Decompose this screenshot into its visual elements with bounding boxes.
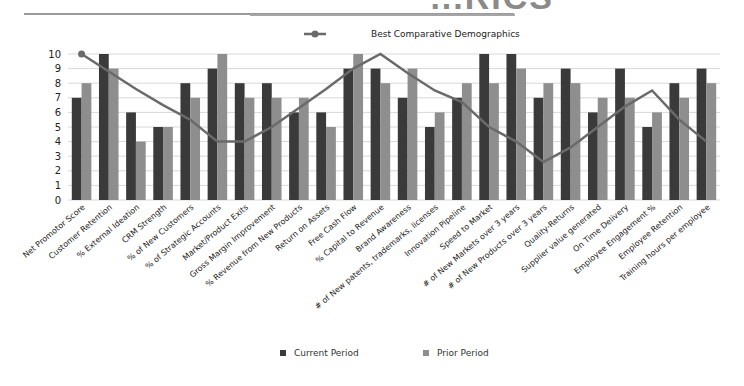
bar-prior-period: [435, 112, 445, 200]
bar-prior-period: [245, 98, 255, 200]
bar-prior-period: [272, 98, 282, 200]
bar-current-period: [289, 112, 299, 200]
bar-prior-period: [190, 98, 200, 200]
x-tick-label: # of New Markets over 3 years: [421, 203, 522, 289]
bar-current-period: [343, 69, 353, 200]
bar-prior-period: [408, 69, 418, 200]
bar-current-period: [126, 112, 136, 200]
y-tick-label: 4: [55, 136, 61, 147]
legend-label-line: Best Comparative Demographics: [371, 29, 520, 39]
bar-prior-period: [516, 69, 526, 200]
bar-prior-period: [462, 83, 472, 200]
bar-current-period: [534, 98, 544, 200]
y-tick-label: 7: [55, 92, 61, 103]
y-tick-label: 6: [55, 107, 61, 118]
bar-current-period: [398, 98, 408, 200]
y-tick-label: 5: [55, 122, 61, 133]
bar-prior-period: [82, 83, 92, 200]
legend-label-prior: Prior Period: [437, 348, 489, 358]
bar-prior-period: [489, 83, 499, 200]
bar-prior-period: [380, 83, 390, 200]
bar-current-period: [262, 83, 272, 200]
bar-prior-period: [136, 142, 146, 200]
bar-current-period: [669, 83, 679, 200]
legend-line-marker-icon: [312, 31, 319, 38]
bar-prior-period: [299, 98, 309, 200]
y-tick-label: 0: [55, 195, 61, 206]
bar-prior-period: [598, 98, 608, 200]
y-tick-label: 1: [55, 180, 61, 191]
bar-current-period: [316, 112, 326, 200]
y-tick-label: 10: [48, 49, 61, 60]
bar-current-period: [72, 98, 82, 200]
x-tick-label: # of New Products over 3 years: [446, 203, 549, 291]
bar-current-period: [180, 83, 190, 200]
bar-current-period: [588, 112, 598, 200]
y-tick-label: 9: [55, 63, 61, 74]
bar-current-period: [452, 98, 462, 200]
bar-prior-period: [353, 54, 363, 200]
legend-item-prior: Prior Period: [423, 348, 489, 358]
legend-item-current: Current Period: [280, 348, 359, 358]
bar-prior-period: [163, 127, 173, 200]
bar-current-period: [425, 127, 435, 200]
y-tick-label: 3: [55, 151, 61, 162]
y-tick-label: 2: [55, 165, 61, 176]
legend-label-current: Current Period: [294, 348, 359, 358]
bar-current-period: [371, 69, 381, 200]
bar-prior-period: [652, 112, 662, 200]
bar-current-period: [153, 127, 163, 200]
y-tick-label: 8: [55, 78, 61, 89]
prior-period-swatch-icon: [423, 350, 429, 356]
bar-prior-period: [109, 69, 119, 200]
bar-current-period: [561, 69, 571, 200]
bottom-legend: Current Period Prior Period: [0, 348, 744, 368]
bar-prior-period: [217, 54, 227, 200]
bar-prior-period: [543, 83, 553, 200]
bar-current-period: [506, 54, 516, 200]
bar-prior-period: [679, 98, 689, 200]
bar-prior-period: [326, 127, 336, 200]
bar-current-period: [99, 54, 109, 200]
bar-prior-period: [625, 98, 635, 200]
current-period-swatch-icon: [280, 350, 286, 356]
bar-line-chart: 012345678910Net Promotor ScoreCustomer R…: [0, 0, 744, 386]
bar-current-period: [642, 127, 652, 200]
line-marker: [78, 51, 85, 58]
bar-prior-period: [706, 83, 716, 200]
bar-current-period: [615, 69, 625, 200]
best-comparative-line: [82, 54, 707, 162]
